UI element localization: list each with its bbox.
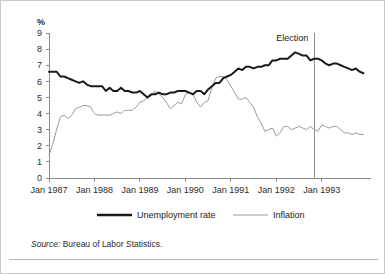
y-axis-ticks: 0123456789 xyxy=(37,28,49,183)
y-tick-label: 5 xyxy=(37,93,42,103)
chart-figure: % 0123456789 Election Jan 1987Jan 1988Ja… xyxy=(0,0,385,274)
election-label: Election xyxy=(276,33,308,43)
x-axis-ticks xyxy=(49,178,322,182)
source-keyword: Source: xyxy=(31,239,60,249)
x-tick-label: Jan 1988 xyxy=(76,185,113,195)
x-tick-label: Jan 1989 xyxy=(121,185,158,195)
y-tick-label: 1 xyxy=(37,157,42,167)
series-line-inflation xyxy=(49,77,363,156)
y-tick-label: 7 xyxy=(37,60,42,70)
y-tick-label: 2 xyxy=(37,141,42,151)
y-tick-label: 9 xyxy=(37,28,42,38)
legend-label-inflation: Inflation xyxy=(273,210,305,220)
y-tick-label: 4 xyxy=(37,109,42,119)
x-tick-label: Jan 1987 xyxy=(30,185,67,195)
y-unit-label-group: % xyxy=(37,17,45,27)
x-tick-label: Jan 1990 xyxy=(167,185,204,195)
legend-label-unemployment: Unemployment rate xyxy=(137,210,216,220)
legend-item-inflation: Inflation xyxy=(233,210,305,220)
y-axis-unit-label: % xyxy=(37,17,45,27)
legend-item-unemployment: Unemployment rate xyxy=(97,210,216,220)
y-tick-label: 6 xyxy=(37,77,42,87)
x-tick-label: Jan 1992 xyxy=(258,185,295,195)
x-axis-tick-labels: Jan 1987Jan 1988Jan 1989Jan 1990Jan 1991… xyxy=(30,185,340,195)
y-tick-label: 8 xyxy=(37,44,42,54)
y-tick-label: 0 xyxy=(37,173,42,183)
source-note: Source: Bureau of Labor Statistics. xyxy=(31,239,162,249)
chart-legend: Unemployment rate Inflation xyxy=(97,210,305,220)
chart-canvas: % 0123456789 Election Jan 1987Jan 1988Ja… xyxy=(1,1,385,274)
election-annotation: Election xyxy=(276,33,314,178)
source-text: Bureau of Labor Statistics. xyxy=(63,239,163,249)
series-line-unemployment xyxy=(49,52,363,97)
y-tick-label: 3 xyxy=(37,125,42,135)
x-tick-label: Jan 1993 xyxy=(303,185,340,195)
bottom-divider xyxy=(9,259,378,260)
x-tick-label: Jan 1991 xyxy=(212,185,249,195)
